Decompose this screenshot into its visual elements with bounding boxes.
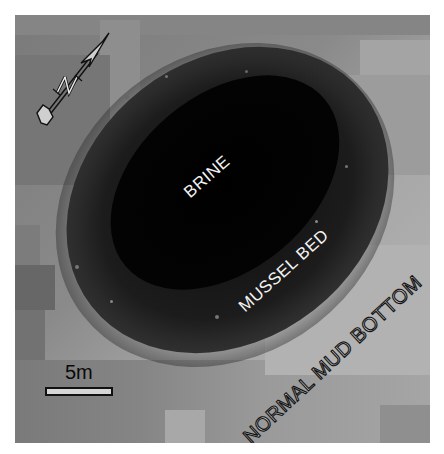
mussel-speck bbox=[315, 220, 318, 223]
scale-bar bbox=[45, 387, 113, 396]
mosaic-tile bbox=[15, 265, 55, 310]
mussel-speck bbox=[75, 265, 79, 269]
mussel-speck bbox=[125, 95, 129, 99]
scale-bar-label: 5m bbox=[65, 361, 93, 384]
mosaic-tile bbox=[380, 405, 430, 443]
north-arrow-icon bbox=[27, 29, 117, 129]
seafloor-photomosaic: BRINE MUSSEL BED NORMAL MUD BOTTOM 5m bbox=[15, 15, 430, 443]
mosaic-tile bbox=[165, 410, 205, 443]
mussel-speck bbox=[245, 70, 248, 73]
mussel-speck bbox=[345, 165, 348, 168]
mussel-speck bbox=[110, 300, 113, 303]
mussel-speck bbox=[215, 315, 219, 319]
mussel-speck bbox=[165, 75, 168, 78]
